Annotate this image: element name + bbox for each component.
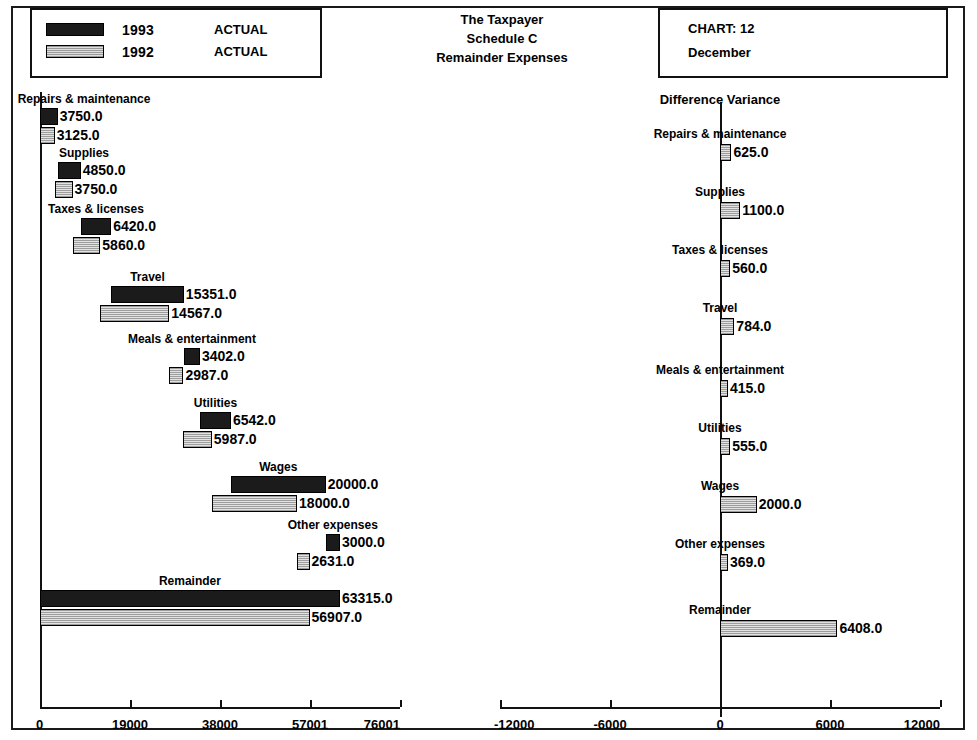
variance-bar [720, 554, 728, 571]
right-category-label: Supplies [695, 185, 745, 199]
left-bar-1993 [200, 412, 231, 429]
right-axis-tick-label: 6000 [816, 717, 845, 732]
right-category-label: Travel [703, 301, 738, 315]
left-axis-tick [40, 700, 42, 707]
left-bar-1992 [169, 367, 183, 384]
left-bar-1993 [231, 476, 326, 493]
left-value-label-1993: 3000.0 [342, 534, 385, 551]
left-value-label-1993: 4850.0 [83, 162, 126, 179]
title-line-1: The Taxpayer [352, 10, 652, 29]
legend-swatch-1993 [46, 23, 104, 36]
left-bar-1993 [40, 590, 340, 607]
right-category-label: Remainder [689, 603, 751, 617]
variance-value-label: 415.0 [730, 380, 765, 397]
chart-number-box: CHART: 12 December [658, 8, 948, 78]
legend-box: 1993 ACTUAL 1992 ACTUAL [30, 8, 322, 78]
left-value-label-1993: 15351.0 [186, 286, 237, 303]
right-category-label: Utilities [698, 421, 741, 435]
chart-title: The Taxpayer Schedule C Remainder Expens… [352, 10, 652, 67]
variance-value-label: 560.0 [732, 260, 767, 277]
right-category-label: Repairs & maintenance [654, 127, 787, 141]
chart-period-label: December [688, 45, 751, 60]
left-bar-1992 [55, 181, 73, 198]
left-axis-tick-label: 38000 [202, 717, 238, 732]
left-bar-1993 [58, 162, 81, 179]
left-value-label-1993: 6542.0 [233, 412, 276, 429]
left-axis-tick-label: 19000 [112, 717, 148, 732]
variance-value-label: 555.0 [732, 438, 767, 455]
left-category-label: Supplies [59, 146, 109, 160]
left-value-label-1993: 20000.0 [328, 476, 379, 493]
left-value-label-1992: 56907.0 [312, 609, 363, 626]
right-category-label: Other expenses [675, 537, 765, 551]
left-category-label: Meals & entertainment [128, 332, 256, 346]
left-value-label-1992: 3750.0 [75, 181, 118, 198]
variance-value-label: 625.0 [733, 144, 768, 161]
left-category-label: Taxes & licenses [48, 202, 144, 216]
legend-kind-1992: ACTUAL [214, 44, 267, 59]
left-plot-area: 019000380005700176001Repairs & maintenan… [40, 92, 440, 707]
left-value-label-1992: 2987.0 [185, 367, 228, 384]
left-axis-tick-label: 0 [36, 717, 43, 732]
left-value-label-1993: 63315.0 [342, 590, 393, 607]
variance-value-label: 1100.0 [742, 202, 784, 219]
left-bar-1992 [40, 127, 55, 144]
right-category-axis [500, 707, 940, 709]
legend-kind-1993: ACTUAL [214, 22, 267, 37]
left-value-label-1993: 3402.0 [202, 348, 245, 365]
left-bar-1993 [326, 534, 340, 551]
left-category-label: Repairs & maintenance [18, 92, 151, 106]
left-value-label-1992: 18000.0 [299, 495, 350, 512]
left-bar-1993 [184, 348, 200, 365]
left-bar-1992 [297, 553, 309, 570]
left-category-label: Remainder [159, 574, 221, 588]
variance-value-label: 784.0 [736, 318, 771, 335]
left-axis-tick [400, 700, 402, 707]
right-axis-tick-label: 0 [716, 717, 723, 732]
left-bar-1993 [111, 286, 184, 303]
variance-value-label: 6408.0 [839, 620, 882, 637]
variance-bar [720, 496, 757, 513]
left-bar-1993 [40, 108, 58, 125]
legend-row-1992: 1992 ACTUAL [46, 44, 154, 59]
chart-page: 1993 ACTUAL 1992 ACTUAL The Taxpayer Sch… [0, 0, 977, 740]
right-axis-tick [500, 700, 502, 707]
variance-bar [720, 620, 837, 637]
variance-bar [720, 144, 731, 161]
variance-bar [720, 380, 728, 397]
left-category-label: Travel [130, 270, 165, 284]
left-axis-tick [220, 700, 222, 707]
variance-bar [720, 318, 734, 335]
right-category-label: Meals & entertainment [656, 363, 784, 377]
title-line-2: Schedule C [352, 29, 652, 48]
left-axis-tick-label: 76001 [364, 717, 400, 732]
left-value-label-1992: 14567.0 [171, 305, 222, 322]
left-axis-tick [310, 700, 312, 707]
right-axis-tick [720, 700, 722, 707]
left-value-label-1992: 5860.0 [102, 237, 145, 254]
left-category-label: Utilities [194, 396, 237, 410]
variance-value-label: 369.0 [730, 554, 765, 571]
title-line-3: Remainder Expenses [352, 48, 652, 67]
right-category-label: Wages [701, 479, 739, 493]
right-plot-area: Difference Variance-12000-60000600012000… [500, 92, 948, 707]
left-value-label-1993: 3750.0 [60, 108, 103, 125]
legend-row-1993: 1993 ACTUAL [46, 22, 154, 37]
left-bar-1992 [100, 305, 169, 322]
left-bar-1992 [40, 609, 310, 626]
right-axis-tick [940, 700, 942, 707]
left-category-axis [40, 707, 400, 709]
left-value-label-1992: 2631.0 [312, 553, 355, 570]
left-axis-tick-label: 57001 [292, 717, 328, 732]
right-category-label: Taxes & licenses [672, 243, 768, 257]
left-value-label-1992: 5987.0 [214, 431, 257, 448]
left-value-label-1993: 6420.0 [113, 218, 156, 235]
legend-year-1992: 1992 [122, 44, 154, 60]
left-category-label: Other expenses [288, 518, 378, 532]
right-axis-tick-label: -12000 [494, 717, 534, 732]
legend-swatch-1992 [46, 45, 104, 58]
left-bar-1992 [183, 431, 211, 448]
right-axis-tick [830, 700, 832, 707]
right-axis-tick-label: 12000 [904, 717, 940, 732]
variance-bar [720, 438, 730, 455]
